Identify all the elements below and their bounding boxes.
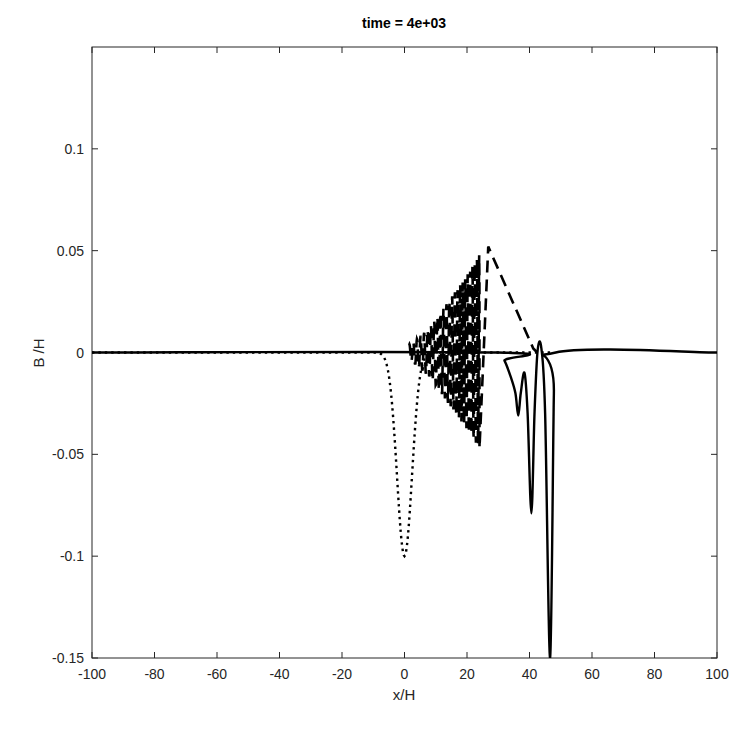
x-axis-label: x/H (393, 686, 416, 703)
x-tick-label: -40 (269, 666, 289, 682)
y-tick-label: 0.1 (65, 141, 85, 157)
y-tick-label: 0 (76, 345, 84, 361)
chart-title: time = 4e+03 (362, 15, 446, 31)
x-tick-label: -60 (207, 666, 227, 682)
y-tick-label: -0.1 (60, 548, 84, 564)
x-tick-label: 20 (459, 666, 475, 682)
x-tick-label: -80 (144, 666, 164, 682)
x-tick-label: -100 (78, 666, 106, 682)
y-tick-label: -0.05 (52, 446, 84, 462)
x-tick-label: 40 (522, 666, 538, 682)
x-tick-label: -20 (332, 666, 352, 682)
plot-area (92, 47, 717, 658)
y-tick-label: -0.15 (52, 650, 84, 666)
x-tick-labels: -100-80-60-40-20020406080100 (78, 666, 729, 682)
x-tick-label: 100 (705, 666, 729, 682)
figure: time = 4e+03 -100-80-60-40-2002040608010… (0, 0, 751, 736)
y-axis-label: B /H (30, 338, 47, 367)
x-tick-label: 60 (584, 666, 600, 682)
x-tick-label: 0 (401, 666, 409, 682)
y-tick-label: 0.05 (57, 243, 84, 259)
x-tick-label: 80 (647, 666, 663, 682)
y-tick-labels: -0.15-0.1-0.0500.050.1 (52, 141, 84, 666)
